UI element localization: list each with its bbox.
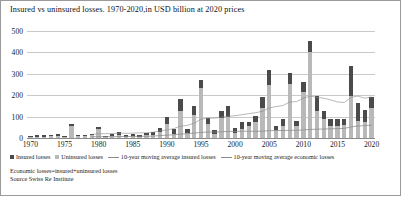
x-axis-tick-label: 2010	[296, 140, 311, 149]
y-axis-tick-label: 300	[12, 69, 23, 78]
x-axis-tick-label: 1990	[159, 140, 174, 149]
x-axis-tick-label: 2015	[330, 140, 345, 149]
y-axis-tick-label: 400	[12, 48, 23, 57]
y-axis-tick-label: 100	[12, 112, 23, 121]
plot-area	[27, 31, 375, 138]
moving-average-lines	[27, 31, 375, 138]
chart-legend: Insured lossesUninsured losses10-year mo…	[10, 154, 334, 160]
x-axis-tick-label: 2000	[228, 140, 243, 149]
legend-item[interactable]: 10-year moving average economic losses	[221, 154, 335, 160]
y-axis-tick-label: 200	[12, 91, 23, 100]
legend-item[interactable]: Insured losses	[10, 154, 50, 160]
legend-label: 10-year moving average economic losses	[234, 154, 335, 160]
legend-line-icon	[221, 157, 232, 158]
legend-label: Uninsured losses	[61, 154, 102, 160]
x-axis-tick-label: 1980	[91, 140, 106, 149]
footer-source: Source Swiss Re Institute	[10, 175, 117, 183]
legend-line-icon	[108, 157, 119, 158]
legend-label: Insured losses	[16, 154, 50, 160]
y-axis: 0100200300400500	[1, 31, 23, 138]
x-axis-tick-label: 1995	[193, 140, 208, 149]
x-axis-tick-label: 2005	[262, 140, 277, 149]
footer-note: Economic losses=insured+uninsured losses	[10, 167, 117, 175]
x-axis-tick-label: 2020	[364, 140, 379, 149]
legend-item[interactable]: 10-year moving average insured losses	[108, 154, 216, 160]
x-axis-tick-label: 1985	[125, 140, 140, 149]
legend-label: 10-year moving average insured losses	[121, 154, 216, 160]
legend-swatch-icon	[10, 155, 14, 159]
y-axis-tick-label: 500	[12, 27, 23, 36]
x-axis-line	[27, 138, 375, 139]
x-axis-tick-label: 1975	[57, 140, 72, 149]
chart-footer: Economic losses=insured+uninsured losses…	[10, 167, 117, 184]
legend-swatch-icon	[55, 155, 59, 159]
legend-item[interactable]: Uninsured losses	[55, 154, 102, 160]
chart-title: Insured vs uninsured losses. 1970-2020,i…	[10, 5, 244, 14]
moving-average-line	[92, 125, 372, 137]
x-axis-tick-label: 1970	[23, 140, 38, 149]
chart-card: Insured vs uninsured losses. 1970-2020,i…	[0, 0, 401, 196]
